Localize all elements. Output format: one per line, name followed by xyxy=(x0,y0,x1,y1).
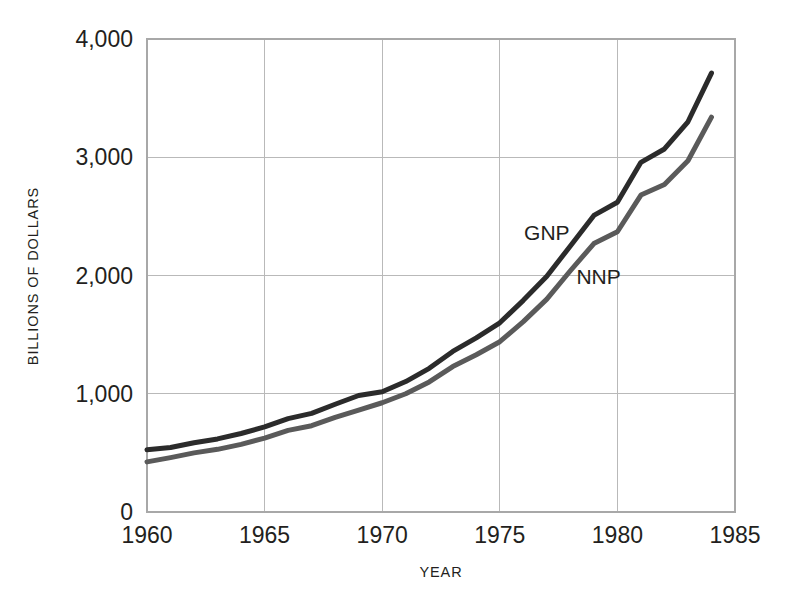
x-tick-label: 1975 xyxy=(474,522,525,548)
chart-figure: 01,0002,0003,0004,000 196019651970197519… xyxy=(0,0,793,605)
x-tick-label: 1965 xyxy=(239,522,290,548)
y-axis-title: BILLIONS OF DOLLARS xyxy=(25,187,41,365)
x-tick-label: 1960 xyxy=(121,522,172,548)
gnp-nnp-line-chart: 01,0002,0003,0004,000 196019651970197519… xyxy=(0,0,793,605)
series-label-gnp: GNP xyxy=(524,221,570,244)
chart-background xyxy=(0,0,793,605)
y-tick-label: 4,000 xyxy=(75,26,133,52)
x-axis-title: YEAR xyxy=(419,564,462,580)
x-tick-label: 1985 xyxy=(709,522,760,548)
y-tick-label: 1,000 xyxy=(75,381,133,407)
x-tick-label: 1970 xyxy=(357,522,408,548)
y-tick-label: 3,000 xyxy=(75,144,133,170)
x-tick-label: 1980 xyxy=(592,522,643,548)
series-label-nnp: NNP xyxy=(576,265,620,288)
y-tick-label: 2,000 xyxy=(75,263,133,289)
